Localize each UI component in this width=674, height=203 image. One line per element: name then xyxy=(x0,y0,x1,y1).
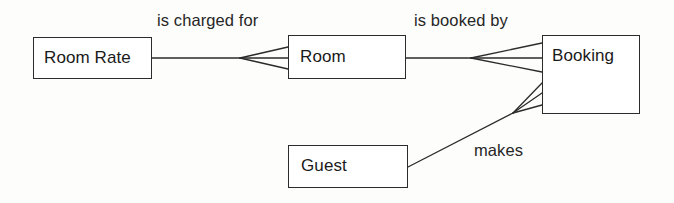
entity-label-booking: Booking xyxy=(552,46,614,66)
crows-foot-booking-upper xyxy=(471,43,542,72)
entity-label-room-rate: Room Rate xyxy=(44,48,131,68)
entity-label-room: Room xyxy=(300,47,346,67)
relationship-label-makes: makes xyxy=(474,141,523,160)
crows-foot-room-left xyxy=(240,47,288,69)
crows-foot-booking-lower xyxy=(513,83,542,113)
relationship-label-is-charged-for: is charged for xyxy=(157,11,258,30)
er-diagram: Room Rate Room Booking Guest is charged … xyxy=(0,0,674,203)
relationship-label-is-booked-by: is booked by xyxy=(414,11,508,30)
entity-label-guest: Guest xyxy=(301,156,347,176)
